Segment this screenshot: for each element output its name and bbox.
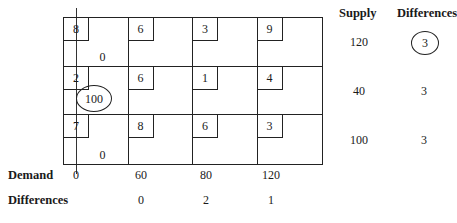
table-cell-r2c3[interactable]: 1 xyxy=(193,67,258,116)
demand-row-label: Demand xyxy=(8,168,53,183)
table-cell-r3c2[interactable]: 8 xyxy=(129,115,194,164)
table-cell-r3c4[interactable]: 3 xyxy=(258,115,323,164)
cost-box-r3c3: 6 xyxy=(193,115,218,138)
supply-value-row1: 120 xyxy=(339,35,379,50)
cost-box-r1c3: 3 xyxy=(193,18,218,41)
cost-box-r1c4: 9 xyxy=(258,18,283,41)
bottom-differences-row-label: Differences xyxy=(8,193,68,208)
transportation-tableau: 8 0 6 3 9 2 100 6 1 4 7 0 8 6 3 xyxy=(63,17,323,165)
row-difference-value-row3: 3 xyxy=(404,133,444,148)
cost-value-r3c4: 3 xyxy=(267,120,273,132)
cost-value-r2c2: 6 xyxy=(138,72,144,84)
differences-column-header: Differences xyxy=(397,6,457,21)
table-cell-r2c1[interactable]: 2 100 xyxy=(64,67,129,116)
row-difference-circled-row1: 3 xyxy=(411,31,439,55)
table-cell-r1c4[interactable]: 9 xyxy=(258,18,323,67)
table-cell-r1c3[interactable]: 3 xyxy=(193,18,258,67)
table-cell-r2c4[interactable]: 4 xyxy=(258,67,323,116)
supply-value-row2: 40 xyxy=(339,84,379,99)
cost-box-r1c1: 8 xyxy=(64,18,89,41)
table-cell-r1c2[interactable]: 6 xyxy=(129,18,194,67)
cost-box-r1c2: 6 xyxy=(129,18,154,41)
cost-value-r3c2: 8 xyxy=(138,120,144,132)
cost-box-r2c3: 1 xyxy=(193,67,218,90)
cost-box-r2c2: 6 xyxy=(129,67,154,90)
cost-value-r3c1: 7 xyxy=(73,120,79,132)
allocation-r3c1: 0 xyxy=(100,149,106,161)
table-cell-r1c1[interactable]: 8 0 xyxy=(64,18,129,67)
cost-value-r1c2: 6 xyxy=(138,23,144,35)
table-cell-r3c3[interactable]: 6 xyxy=(193,115,258,164)
cost-box-r3c4: 3 xyxy=(258,115,283,138)
table-cell-r3c1[interactable]: 7 0 xyxy=(64,115,129,164)
column-difference-value-col3: 2 xyxy=(179,193,233,208)
demand-value-col4: 120 xyxy=(244,168,298,183)
demand-value-col2: 60 xyxy=(114,168,168,183)
cost-box-r3c2: 8 xyxy=(129,115,154,138)
demand-value-col1: 0 xyxy=(49,168,103,183)
cost-box-r3c1: 7 xyxy=(64,115,89,138)
row-difference-value-row2: 3 xyxy=(404,84,444,99)
allocation-circled-r2c1: 100 xyxy=(76,85,112,112)
column-difference-value-col4: 1 xyxy=(244,193,298,208)
cost-value-r3c3: 6 xyxy=(202,120,208,132)
cost-value-r2c4: 4 xyxy=(267,72,273,84)
cost-value-r1c3: 3 xyxy=(202,23,208,35)
cost-value-r2c3: 1 xyxy=(202,72,208,84)
table-cell-r2c2[interactable]: 6 xyxy=(129,67,194,116)
allocation-r1c1: 0 xyxy=(100,51,106,63)
cost-value-r2c1: 2 xyxy=(73,72,79,84)
cost-value-r1c4: 9 xyxy=(267,23,273,35)
cost-box-r2c4: 4 xyxy=(258,67,283,90)
cost-value-r1c1: 8 xyxy=(73,23,79,35)
demand-value-col3: 80 xyxy=(179,168,233,183)
supply-column-header: Supply xyxy=(339,6,377,21)
column-difference-value-col2: 0 xyxy=(114,193,168,208)
supply-value-row3: 100 xyxy=(339,133,379,148)
